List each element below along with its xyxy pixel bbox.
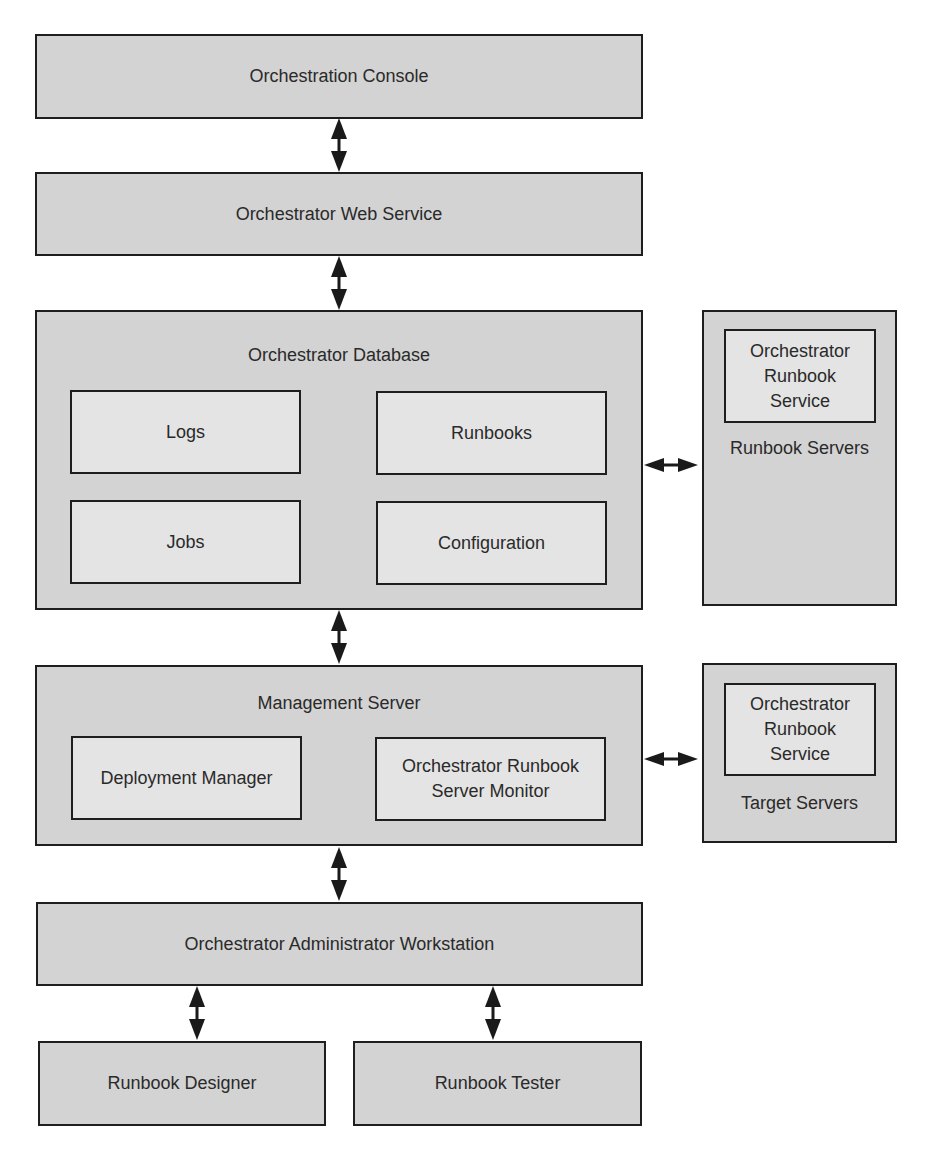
arrow-webservice-database bbox=[331, 256, 347, 310]
runbook-servers-service-box: Orchestrator Runbook Service bbox=[724, 329, 876, 423]
arrow-database-management bbox=[331, 610, 347, 664]
runbook-server-monitor-label: Orchestrator Runbook Server Monitor bbox=[402, 754, 579, 804]
orchestrator-database-box: Orchestrator Database Logs Runbooks Jobs… bbox=[35, 310, 643, 610]
runbook-servers-service-label: Orchestrator Runbook Service bbox=[750, 339, 850, 414]
deployment-manager-box: Deployment Manager bbox=[71, 736, 302, 820]
runbooks-label: Runbooks bbox=[451, 421, 532, 446]
arrow-workstation-designer bbox=[189, 986, 205, 1040]
runbook-server-monitor-box: Orchestrator Runbook Server Monitor bbox=[375, 737, 606, 821]
target-servers-box: Orchestrator Runbook Service Target Serv… bbox=[702, 663, 897, 843]
deployment-manager-label: Deployment Manager bbox=[100, 766, 272, 791]
jobs-box: Jobs bbox=[70, 500, 301, 584]
runbook-servers-box: Orchestrator Runbook Service Runbook Ser… bbox=[702, 310, 897, 606]
target-servers-service-box: Orchestrator Runbook Service bbox=[724, 683, 876, 776]
configuration-label: Configuration bbox=[438, 531, 545, 556]
arrow-management-workstation bbox=[331, 847, 347, 901]
runbook-designer-label: Runbook Designer bbox=[107, 1073, 256, 1094]
arrow-workstation-tester bbox=[485, 986, 501, 1040]
management-server-box: Management Server Deployment Manager Orc… bbox=[35, 665, 643, 846]
logs-label: Logs bbox=[166, 420, 205, 445]
arrow-console-webservice bbox=[331, 118, 347, 172]
orchestrator-database-label: Orchestrator Database bbox=[37, 345, 641, 366]
runbook-designer-box: Runbook Designer bbox=[38, 1041, 326, 1126]
orchestration-console-label: Orchestration Console bbox=[249, 66, 428, 87]
web-service-box: Orchestrator Web Service bbox=[35, 172, 643, 256]
admin-workstation-box: Orchestrator Administrator Workstation bbox=[36, 902, 643, 986]
runbooks-box: Runbooks bbox=[376, 391, 607, 475]
logs-box: Logs bbox=[70, 390, 301, 474]
jobs-label: Jobs bbox=[166, 530, 204, 555]
web-service-label: Orchestrator Web Service bbox=[236, 204, 443, 225]
admin-workstation-label: Orchestrator Administrator Workstation bbox=[185, 934, 495, 955]
management-server-label: Management Server bbox=[37, 693, 641, 714]
configuration-box: Configuration bbox=[376, 501, 607, 585]
runbook-servers-label: Runbook Servers bbox=[704, 438, 895, 459]
target-servers-label: Target Servers bbox=[704, 793, 895, 814]
target-servers-service-label: Orchestrator Runbook Service bbox=[750, 692, 850, 767]
arrow-database-runbookservers bbox=[644, 458, 698, 472]
orchestration-console-box: Orchestration Console bbox=[35, 34, 643, 119]
arrow-management-targetservers bbox=[644, 752, 698, 766]
runbook-tester-label: Runbook Tester bbox=[435, 1073, 561, 1094]
runbook-tester-box: Runbook Tester bbox=[353, 1041, 642, 1126]
